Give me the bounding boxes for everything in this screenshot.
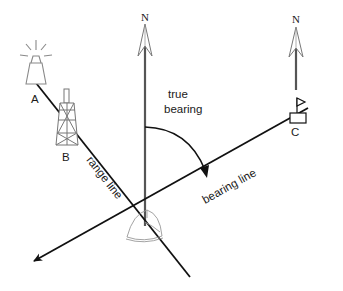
north-arrow-main: N — [138, 11, 152, 226]
tower-icon — [56, 89, 78, 145]
diagram-canvas: N N true bearing range line bearing line… — [0, 0, 343, 291]
true-bearing-label-2: bearing — [164, 103, 202, 115]
true-bearing-label-1: true — [168, 88, 188, 100]
navigation-diagram: N N true bearing range line bearing line… — [0, 0, 343, 291]
point-b-label: B — [62, 151, 70, 163]
point-a-label: A — [31, 93, 39, 105]
north-label-c: N — [292, 13, 300, 25]
bearing-line-label: bearing line — [200, 166, 258, 205]
north-label-main: N — [141, 11, 149, 23]
point-c-label: C — [291, 126, 299, 138]
lighthouse-icon — [20, 40, 52, 84]
north-arrow-c: N — [289, 13, 303, 90]
range-line-label: range line — [84, 154, 125, 201]
true-bearing-arc — [145, 127, 209, 178]
